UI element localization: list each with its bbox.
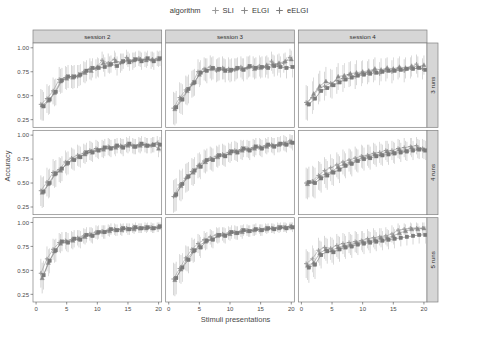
data-point: [260, 65, 264, 69]
x-axis-tick-label: 0: [34, 306, 38, 312]
data-point: [387, 69, 391, 73]
facet-strip-column-label: session 2: [84, 33, 111, 40]
data-point: [66, 241, 70, 245]
data-point: [411, 234, 415, 238]
data-point: [91, 234, 95, 238]
data-point: [42, 190, 46, 194]
data-point: [356, 159, 360, 163]
data-point: [332, 250, 336, 254]
x-axis-tick-label: 15: [125, 306, 132, 312]
data-point: [423, 233, 427, 237]
x-axis-tick-label: 10: [359, 306, 366, 312]
y-axis-tick-label: 1.00: [17, 220, 29, 226]
data-point: [272, 227, 276, 231]
data-point: [128, 142, 132, 146]
data-point: [279, 225, 283, 229]
data-point: [285, 226, 289, 230]
data-point: [140, 59, 144, 63]
data-point: [103, 146, 107, 150]
data-point: [279, 65, 283, 69]
data-point: [181, 98, 185, 102]
data-point: [91, 151, 95, 155]
facet-panel: [298, 43, 427, 127]
data-point: [248, 229, 252, 233]
data-point: [325, 174, 329, 178]
y-axis-tick-label: 0.75: [17, 156, 29, 162]
data-point: [91, 66, 95, 70]
data-point: [338, 80, 342, 84]
y-axis-tick-label: 0.50: [17, 180, 29, 186]
y-axis-tick-label: 0.25: [17, 117, 29, 123]
data-point: [399, 68, 403, 72]
data-point: [254, 66, 258, 70]
data-point: [223, 234, 227, 238]
data-point: [279, 142, 283, 146]
data-point: [248, 64, 252, 68]
data-point: [242, 228, 246, 232]
data-point: [193, 80, 197, 84]
data-point: [242, 68, 246, 72]
data-point: [260, 228, 264, 232]
data-point: [417, 66, 421, 70]
data-point: [134, 225, 138, 229]
facet-strip-row-label: 4 runs: [429, 164, 436, 181]
data-point: [338, 247, 342, 251]
y-axis-tick-label: 0.75: [17, 244, 29, 250]
data-point: [97, 66, 101, 70]
data-point: [230, 150, 234, 154]
data-point: [223, 154, 227, 158]
data-point: [319, 176, 323, 180]
data-point: [405, 150, 409, 154]
data-point: [350, 76, 354, 80]
y-axis-tick-label: 0.50: [17, 268, 29, 274]
data-point: [285, 143, 289, 147]
data-point: [97, 230, 101, 234]
data-point: [266, 143, 270, 147]
data-point: [411, 149, 415, 153]
data-point: [205, 69, 209, 73]
data-point: [381, 153, 385, 157]
data-point: [66, 161, 70, 165]
x-axis-tick-label: 20: [155, 306, 162, 312]
data-point: [344, 246, 348, 250]
data-point: [158, 57, 162, 61]
x-axis-tick-label: 5: [65, 306, 69, 312]
data-point: [97, 149, 101, 153]
data-point: [223, 69, 227, 73]
x-axis-tick-label: 0: [300, 306, 304, 312]
data-point: [60, 167, 64, 171]
data-point: [42, 104, 46, 108]
data-point: [158, 143, 162, 147]
facet-strip-column-label: session 4: [350, 33, 377, 40]
data-point: [266, 66, 270, 70]
data-point: [350, 162, 354, 166]
data-point: [356, 243, 360, 247]
data-point: [313, 181, 317, 185]
data-point: [66, 75, 70, 79]
data-point: [48, 181, 52, 185]
data-point: [399, 151, 403, 155]
data-point: [374, 240, 378, 244]
data-point: [187, 258, 191, 262]
data-point: [79, 155, 83, 159]
data-point: [248, 149, 252, 153]
data-point: [291, 65, 295, 69]
data-point: [381, 70, 385, 74]
y-axis-tick-label: 1.00: [17, 132, 29, 138]
data-point: [134, 57, 138, 61]
data-point: [230, 230, 234, 234]
data-point: [230, 68, 234, 72]
data-point: [332, 171, 336, 175]
data-point: [254, 145, 258, 149]
x-axis-title: Stimuli presentations: [201, 315, 271, 324]
data-point: [121, 226, 125, 230]
x-axis-tick-label: 5: [198, 306, 202, 312]
data-point: [393, 69, 397, 73]
data-point: [115, 228, 119, 232]
data-point: [423, 149, 427, 153]
data-point: [115, 144, 119, 148]
data-point: [236, 151, 240, 155]
data-point: [60, 79, 64, 83]
x-axis-tick-label: 10: [227, 306, 234, 312]
data-point: [313, 97, 317, 101]
